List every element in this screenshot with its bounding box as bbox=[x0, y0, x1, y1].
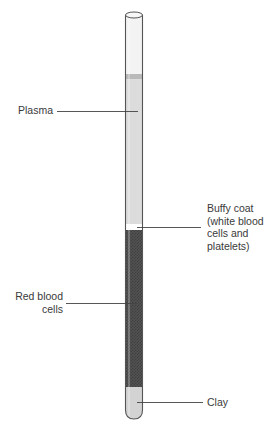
tube-contents bbox=[124, 14, 144, 421]
red-blood-cells-layer bbox=[124, 230, 144, 387]
label-plasma: Plasma bbox=[12, 104, 53, 117]
empty-tube-section bbox=[124, 14, 144, 76]
diagram-canvas: Plasma Buffy coat (white blood cells and… bbox=[0, 0, 265, 424]
tube-opening bbox=[126, 12, 143, 18]
label-clay: Clay bbox=[207, 396, 247, 409]
plasma-layer bbox=[124, 76, 144, 225]
meniscus bbox=[124, 74, 144, 79]
tube-highlight bbox=[128, 14, 130, 419]
label-red-blood-cells: Red blood cells bbox=[6, 290, 63, 315]
buffy-coat-layer bbox=[124, 224, 144, 230]
label-buffy-coat: Buffy coat (white blood cells and platel… bbox=[207, 202, 265, 252]
